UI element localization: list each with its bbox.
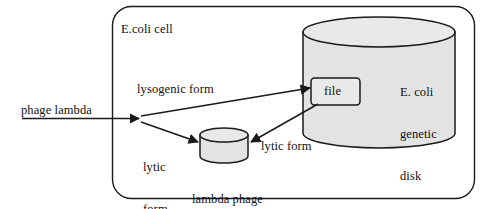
lambda-phage-disk-cylinder bbox=[200, 128, 248, 163]
lambda-phage-disk-label-line1: lambda phage bbox=[192, 192, 263, 206]
file-label: file bbox=[324, 84, 341, 98]
ecoli-genetic-disk-label-line3: disk bbox=[400, 169, 437, 183]
ecoli-genetic-disk-label-line2: genetic bbox=[400, 127, 437, 141]
ecoli-cell-label: E.coli cell bbox=[121, 22, 173, 36]
phage-lambda-label: phage lambda bbox=[21, 103, 92, 117]
lysogenic-form-label: lysogenic form bbox=[137, 82, 214, 96]
ecoli-genetic-disk-label: E. coli genetic disk bbox=[400, 57, 437, 209]
diagram-canvas: E.coli cell E. coli genetic disk file ly… bbox=[0, 0, 487, 209]
lytic-form-left-label-line1: lytic bbox=[143, 160, 168, 174]
lytic-form-right-label: lytic form bbox=[261, 139, 312, 153]
lambda-phage-disk-label: lambda phage genetic disk bbox=[192, 164, 263, 209]
lytic-form-left-label: lytic form bbox=[143, 132, 168, 209]
ecoli-genetic-disk-label-line1: E. coli bbox=[400, 85, 437, 99]
lytic-form-left-label-line2: form bbox=[143, 202, 168, 209]
